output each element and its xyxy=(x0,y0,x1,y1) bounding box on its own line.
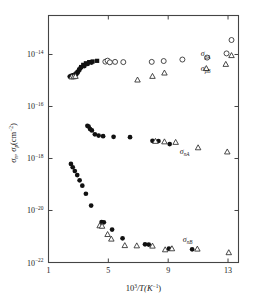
data-point xyxy=(89,203,94,208)
x-tick-label: 1 xyxy=(47,266,51,275)
data-point xyxy=(113,59,118,64)
data-point xyxy=(167,142,172,147)
data-point xyxy=(78,66,83,71)
data-point xyxy=(89,60,94,65)
data-point xyxy=(95,59,99,63)
data-point xyxy=(110,227,115,232)
data-point xyxy=(190,247,195,252)
data-point xyxy=(101,134,106,139)
x-tick-label: 13 xyxy=(224,266,232,275)
data-point xyxy=(107,60,112,65)
data-point xyxy=(75,173,80,178)
scatter-plot: 15913 10−1410−1610−1810−2010−22 σpAσpBσn… xyxy=(0,0,263,308)
data-point xyxy=(128,135,133,140)
data-point xyxy=(180,57,185,62)
data-point xyxy=(84,191,89,196)
data-point xyxy=(72,169,77,174)
legend-marker-open-circle xyxy=(229,38,234,43)
data-point xyxy=(90,128,95,133)
x-tick-label: 5 xyxy=(106,266,110,275)
data-point xyxy=(77,178,82,183)
data-point xyxy=(96,133,101,138)
data-point xyxy=(121,60,126,65)
data-point xyxy=(111,135,116,140)
data-point xyxy=(80,183,85,188)
figure-container: 15913 10−1410−1610−1810−2010−22 σpAσpBσn… xyxy=(0,0,263,308)
data-point xyxy=(224,51,229,56)
data-point xyxy=(161,59,166,64)
x-tick-label: 9 xyxy=(166,266,170,275)
data-point xyxy=(120,236,125,241)
data-point xyxy=(149,59,154,64)
